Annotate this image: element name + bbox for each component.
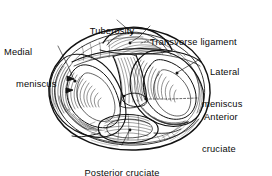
leader-anterior-cruciate: [147, 98, 197, 99]
label-medial-meniscus: Medial meniscus: [4, 26, 66, 111]
label-posterior-cruciate-ligament: Posterior cruciate ligament: [62, 147, 182, 176]
label-tuberosity: Tuberosity: [79, 5, 145, 58]
dot-anterior-cruciate-2: [123, 95, 126, 98]
label-medial-meniscus-line-2: meniscus: [4, 79, 66, 90]
label-anterior-cruciate-ligament: Anterior cruciate ligament: [200, 91, 272, 176]
label-tuberosity-line-1: Tuberosity: [79, 26, 145, 37]
label-anterior-cruciate-line-2: cruciate: [200, 144, 272, 155]
label-medial-meniscus-line-1: Medial: [4, 47, 66, 58]
dot-anterior-cruciate: [145, 98, 148, 101]
label-posterior-cruciate-line-1: Posterior cruciate: [62, 168, 182, 176]
tick-medial-lower: [66, 88, 73, 93]
anatomy-figure-page: Tuberosity Transverse ligament Medial me…: [0, 0, 272, 176]
tick-medial-upper: [67, 76, 74, 81]
dot-medial-meniscus: [74, 80, 77, 83]
lateral-articular-surface: [154, 70, 191, 116]
label-lateral-meniscus-line-1: Lateral: [202, 67, 270, 78]
dot-posterior-cruciate: [129, 129, 132, 132]
label-anterior-cruciate-line-1: Anterior: [200, 112, 272, 123]
dot-lateral-meniscus: [176, 72, 179, 75]
